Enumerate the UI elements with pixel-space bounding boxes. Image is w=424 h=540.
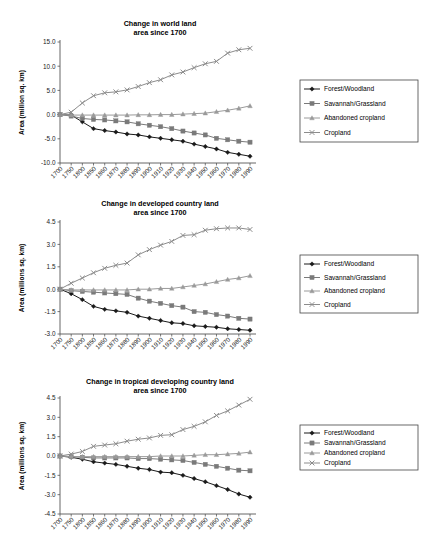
marker-x [69, 281, 74, 286]
y-ticks: 15.010.05.00.0-5.0-10.0 [41, 38, 60, 166]
marker-diamond [181, 139, 185, 143]
chart-legend: Forest/WoodlandSavannah/GrasslandAbandon… [300, 425, 418, 470]
marker-square [158, 301, 162, 305]
series-savannah [58, 287, 252, 321]
marker-diamond [203, 324, 207, 328]
series-cropland [58, 46, 253, 117]
marker-square [103, 118, 107, 122]
marker-x [192, 65, 197, 70]
marker-square [158, 125, 162, 129]
chart-title-line2: area since 1700 [133, 28, 186, 37]
series-line [60, 48, 250, 114]
marker-diamond [170, 321, 174, 325]
chart-title-line1: Change in tropical developing country la… [86, 377, 234, 386]
marker-square [170, 304, 174, 308]
y-ticks: 4.53.01.50.0-1.5-3.0 [44, 218, 60, 337]
x-tick-label: 1990 [239, 164, 254, 179]
marker-square [125, 292, 129, 296]
legend-label-cropland: Cropland [324, 301, 351, 309]
marker-square [203, 462, 207, 466]
marker-diamond [181, 321, 185, 325]
chart-title: Change in tropical developing country la… [86, 377, 234, 395]
marker-diamond [158, 318, 162, 322]
marker-x [214, 413, 219, 418]
y-tick-label: 3.0 [47, 414, 56, 421]
marker-square [203, 310, 207, 314]
marker-diamond [125, 464, 129, 468]
series-line [60, 456, 250, 471]
marker-square [248, 140, 252, 144]
series-abandoned [58, 104, 253, 117]
marker-diamond [136, 133, 140, 137]
chart-title-line1: Change in developed country land [101, 199, 218, 208]
marker-diamond [181, 473, 185, 477]
marker-diamond [214, 483, 218, 487]
series-line [60, 276, 250, 290]
marker-diamond [114, 130, 118, 134]
marker-diamond [147, 467, 151, 471]
legend-label-forest: Forest/Woodland [324, 429, 374, 436]
marker-square [114, 119, 118, 123]
marker-diamond [91, 304, 95, 308]
marker-x [91, 270, 96, 275]
marker-square [310, 441, 314, 445]
legend-label-forest: Forest/Woodland [324, 85, 374, 92]
marker-diamond [147, 135, 151, 139]
y-tick-label: -4.5 [44, 510, 55, 517]
y-axis-label: Area (million sq. km) [18, 70, 26, 135]
marker-square [226, 138, 230, 142]
chart-canvas: Change in developed country landarea sin… [0, 182, 424, 360]
chart-canvas: Change in tropical developing country la… [0, 360, 424, 540]
marker-diamond [225, 327, 229, 331]
legend-label-savannah: Savannah/Grassland [324, 439, 386, 446]
marker-square [170, 458, 174, 462]
marker-diamond [91, 460, 95, 464]
y-tick-label: -3.0 [44, 491, 55, 498]
marker-diamond [248, 154, 252, 158]
legend-label-cropland: Cropland [324, 459, 351, 467]
y-tick-label: 1.5 [47, 433, 56, 440]
marker-diamond [147, 316, 151, 320]
series-line [60, 289, 250, 319]
y-tick-label: 1.5 [47, 263, 56, 270]
marker-diamond [80, 297, 84, 301]
y-axis-label: Area (millions sq. km) [18, 244, 26, 313]
y-ticks: 4.53.01.50.0-1.5-3.0-4.5 [44, 394, 60, 517]
marker-square [226, 466, 230, 470]
series-line [60, 456, 250, 497]
marker-diamond [136, 466, 140, 470]
series-forest [58, 454, 252, 500]
marker-square [237, 316, 241, 320]
y-tick-label: -1.5 [44, 472, 55, 479]
marker-square [214, 464, 218, 468]
y-tick-label: 10.0 [43, 63, 56, 70]
marker-square [192, 460, 196, 464]
marker-x [158, 243, 163, 248]
legend-label-savannah: Savannah/Grassland [324, 274, 386, 281]
marker-diamond [125, 132, 129, 136]
y-tick-label: 4.5 [47, 394, 56, 401]
marker-square [114, 292, 118, 296]
series-savannah [58, 113, 252, 145]
x-ticks: 1700175018001850186018701880189019001910… [49, 514, 254, 530]
x-tick-label: 1990 [239, 335, 254, 350]
marker-x [80, 276, 85, 281]
legend-label-abandoned: Abandoned cropland [324, 449, 385, 457]
legend-label-abandoned: Abandoned cropland [324, 287, 385, 295]
marker-square [214, 136, 218, 140]
marker-square [248, 469, 252, 473]
series-group [58, 397, 253, 500]
chart-title-line2: area since 1700 [133, 208, 186, 217]
y-tick-label: -5.0 [44, 135, 55, 142]
chart-title: Change in developed country landarea sin… [101, 199, 218, 217]
marker-diamond [114, 462, 118, 466]
marker-x [225, 408, 230, 413]
marker-square [136, 296, 140, 300]
x-ticks: 1700175018001850186018701880189019001910… [49, 163, 254, 179]
marker-square [91, 117, 95, 121]
marker-diamond [203, 480, 207, 484]
marker-diamond [103, 461, 107, 465]
marker-diamond [91, 126, 95, 130]
series-line [60, 399, 250, 456]
marker-square [181, 129, 185, 133]
